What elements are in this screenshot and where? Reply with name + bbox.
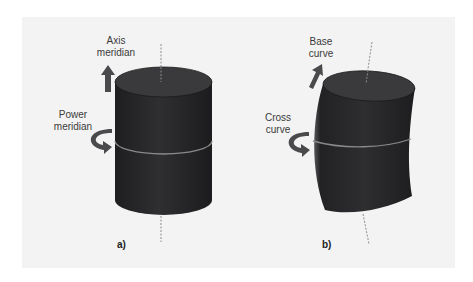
cylinder-b [313, 42, 416, 244]
base-curve-arrow-icon [309, 64, 323, 89]
power-meridian-label: Power meridian [46, 109, 100, 133]
base-curve-label: Base curve [300, 36, 342, 60]
axis-meridian-label: Axis meridian [91, 35, 141, 59]
cylinder-a-top [115, 67, 212, 97]
cylinder-a-body [115, 82, 212, 215]
cylinder-b-body [314, 84, 415, 212]
panel-a-label: a) [117, 239, 126, 250]
panel-b-label: b) [322, 239, 331, 250]
axis-arrow-icon [101, 65, 115, 92]
axis-line-b-bottom [363, 214, 369, 244]
figure-canvas [0, 0, 473, 282]
cross-curve-label: Cross curve [257, 112, 299, 136]
cylinder-a [115, 44, 212, 242]
